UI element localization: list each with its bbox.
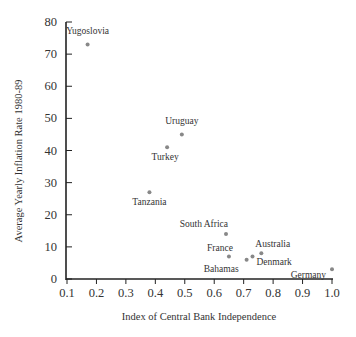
y-tick-label: 30: [45, 176, 58, 190]
data-point: Bahamas: [204, 258, 249, 274]
y-axis-title: Average Yearly Inflation Rate 1980-89: [13, 80, 24, 243]
point-label: Australia: [255, 239, 291, 249]
data-point: Denmark: [251, 255, 293, 267]
point-label: Germany: [291, 270, 327, 280]
y-axis: 01020304050607080: [45, 15, 73, 286]
point-label: France: [207, 243, 233, 253]
point-marker: [165, 145, 169, 149]
point-marker: [245, 258, 249, 262]
point-marker: [251, 255, 255, 259]
x-tick-label: 0.8: [265, 286, 281, 300]
point-label: Turkey: [152, 152, 179, 162]
point-marker: [259, 251, 263, 255]
y-tick-label: 0: [51, 272, 57, 286]
y-tick-label: 70: [45, 47, 58, 61]
point-marker: [147, 190, 151, 194]
point-marker: [86, 42, 90, 46]
data-point: Yugoslovia: [66, 26, 110, 46]
x-tick-label: 0.7: [236, 286, 252, 300]
x-tick-label: 0.2: [89, 286, 105, 300]
point-marker: [330, 267, 334, 271]
x-tick-label: 0.9: [295, 286, 311, 300]
y-tick-label: 20: [45, 208, 58, 222]
y-tick-label: 80: [45, 15, 58, 29]
x-axis: 0.10.20.30.40.50.60.70.80.91.0: [59, 279, 340, 300]
data-point: Australia: [255, 239, 291, 255]
x-tick-label: 1.0: [324, 286, 340, 300]
point-marker: [180, 132, 184, 136]
y-tick-label: 10: [45, 240, 58, 254]
point-label: Uruguay: [165, 116, 198, 126]
y-tick-label: 50: [45, 111, 58, 125]
point-label: Bahamas: [204, 264, 239, 274]
data-point: Turkey: [152, 145, 179, 162]
data-point: Tanzania: [132, 190, 167, 207]
point-label: Yugoslovia: [66, 26, 110, 36]
x-tick-label: 0.5: [177, 286, 193, 300]
point-label: Denmark: [257, 257, 293, 267]
data-point: Uruguay: [165, 116, 198, 136]
x-tick-label: 0.4: [148, 286, 164, 300]
point-marker: [224, 232, 228, 236]
x-axis-title: Index of Central Bank Independence: [122, 311, 277, 322]
y-tick-label: 60: [45, 79, 58, 93]
y-tick-label: 40: [45, 144, 58, 158]
x-tick-label: 0.6: [206, 286, 222, 300]
point-marker: [227, 255, 231, 259]
x-tick-label: 0.3: [118, 286, 134, 300]
data-point: France: [207, 243, 233, 259]
x-tick-label: 0.1: [59, 286, 75, 300]
data-point: South Africa: [180, 219, 229, 236]
data-points: YugosloviaUruguayTurkeyTanzaniaSouth Afr…: [66, 26, 334, 280]
point-label: Tanzania: [132, 197, 167, 207]
point-label: South Africa: [180, 219, 229, 229]
scatter-chart: 01020304050607080 0.10.20.30.40.50.60.70…: [0, 0, 356, 337]
